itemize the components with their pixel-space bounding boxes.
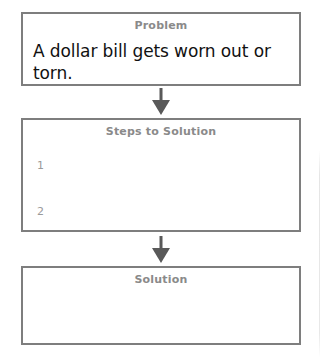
steps-list: 1 2 <box>37 154 289 246</box>
problem-box: Problem A dollar bill gets worn out or t… <box>21 12 301 86</box>
arrow-steps-to-solution <box>148 236 174 264</box>
step-number: 2 <box>37 205 44 218</box>
solution-box: Solution <box>21 266 301 345</box>
step-number: 1 <box>37 159 44 172</box>
steps-to-solution-box: Steps to Solution 1 2 <box>21 118 301 232</box>
page-edge-artifact <box>319 150 320 358</box>
steps-to-solution-box-header: Steps to Solution <box>23 125 299 139</box>
solution-box-header: Solution <box>23 273 299 287</box>
step-row[interactable]: 1 <box>37 154 289 200</box>
problem-box-header: Problem <box>23 19 299 33</box>
solution-box-body[interactable] <box>33 294 289 339</box>
problem-solution-worksheet: Problem A dollar bill gets worn out or t… <box>0 0 323 358</box>
arrow-problem-to-steps <box>148 88 174 116</box>
problem-box-body[interactable]: A dollar bill gets worn out or torn. <box>33 40 289 80</box>
